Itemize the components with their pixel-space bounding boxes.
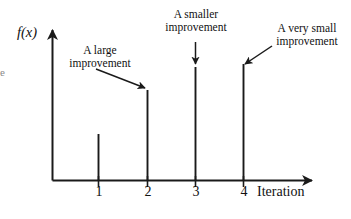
- page-edge-artifact: e: [0, 66, 5, 78]
- y-axis-label: f(x): [17, 24, 37, 41]
- annotation-smaller-improvement: A smaller improvement: [153, 8, 239, 33]
- x-tick-label-1: 1: [89, 184, 109, 200]
- x-tick-label-3: 3: [186, 184, 206, 200]
- arrow-large-improvement: [96, 69, 145, 88]
- x-tick-label-2: 2: [138, 184, 158, 200]
- x-tick-label-4: 4: [234, 184, 254, 200]
- annotation-large-improvement-line1: A large: [58, 44, 142, 57]
- annotation-very-small-improvement-line1: A very small: [265, 22, 349, 35]
- annotation-large-improvement-line2: improvement: [58, 57, 142, 70]
- annotation-smaller-improvement-line2: improvement: [153, 21, 239, 34]
- annotation-very-small-improvement-line2: improvement: [265, 35, 349, 48]
- figure-canvas: e f(x) Iteration 1 2 3 4 A large improve…: [0, 0, 351, 219]
- annotation-very-small-improvement: A very small improvement: [265, 22, 349, 47]
- arrow-very-small-improvement: [245, 46, 272, 64]
- x-axis-label: Iteration: [257, 184, 304, 200]
- annotation-smaller-improvement-line1: A smaller: [153, 8, 239, 21]
- annotation-large-improvement: A large improvement: [58, 44, 142, 69]
- data-bars: [99, 64, 244, 181]
